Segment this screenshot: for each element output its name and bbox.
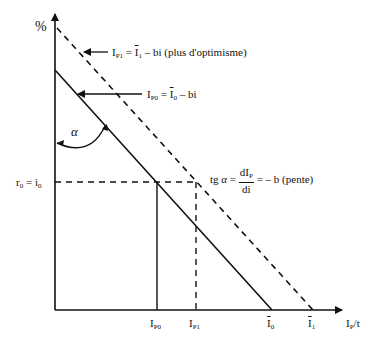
y-axis-label: % [35, 20, 47, 34]
x-tick-i0bar: I0 [267, 318, 274, 331]
alpha-label: α [71, 125, 78, 138]
x-tick-i1bar: I1 [308, 318, 315, 331]
rate-label: r0 = i0 [16, 177, 41, 190]
x-tick-ip0: IP0 [150, 318, 161, 331]
alpha-arc [57, 126, 105, 148]
x-tick-ip1: IP1 [189, 318, 200, 331]
x-axis-label: IP/t [346, 318, 360, 331]
slope-formula: tg α = dIPdi = – b (pente) [210, 166, 313, 195]
optimism-line-label: IP1 = I1 – bi (plus d'optimisme) [112, 47, 247, 60]
base-line-label: IP0 = I0 – bi [147, 89, 197, 102]
